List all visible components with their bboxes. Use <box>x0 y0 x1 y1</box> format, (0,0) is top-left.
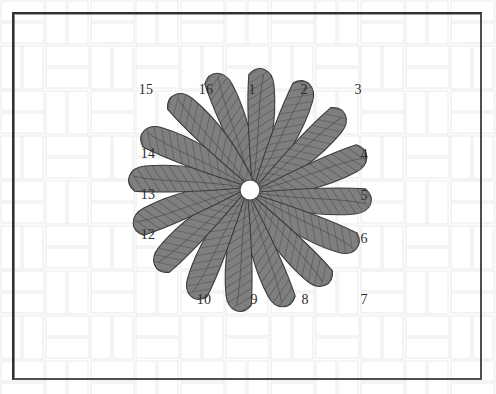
petal-label-15: 15 <box>139 83 153 97</box>
petal-label-3: 3 <box>354 83 361 97</box>
petal-label-16: 16 <box>199 83 213 97</box>
petal-label-10: 10 <box>197 293 211 307</box>
petal-label-4: 4 <box>360 148 367 162</box>
petal-rosette-diagram <box>0 0 496 394</box>
figure-canvas: 123456789101213141516 <box>0 0 496 394</box>
petal-label-13: 13 <box>141 188 155 202</box>
petal-label-6: 6 <box>360 232 367 246</box>
petal-label-12: 12 <box>141 228 155 242</box>
petal-label-1: 1 <box>248 83 255 97</box>
petal-label-7: 7 <box>360 293 367 307</box>
petal-label-9: 9 <box>250 293 257 307</box>
petal-label-2: 2 <box>300 83 307 97</box>
petal-label-5: 5 <box>360 189 367 203</box>
petal-label-8: 8 <box>301 293 308 307</box>
petal-label-14: 14 <box>141 147 155 161</box>
rosette-center-hub <box>240 180 260 200</box>
